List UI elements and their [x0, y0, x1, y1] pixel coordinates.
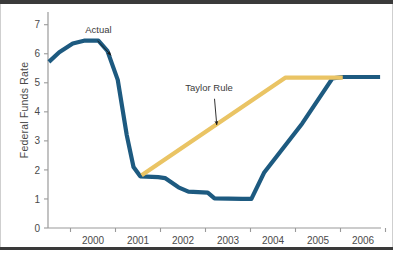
y-axis-ticks: 01234567 [34, 19, 48, 233]
y-tick-label: 5 [34, 77, 40, 88]
annotation-arrow-actual [98, 41, 112, 56]
x-tick-label: 2006 [352, 235, 375, 246]
line-chart-plot: 01234567 2000200120022003200420052006 Ac… [0, 0, 393, 259]
x-tick-label: 2005 [307, 235, 330, 246]
x-tick-label: 2004 [262, 235, 285, 246]
annotation-arrow-taylor-rule [215, 99, 217, 125]
chart-figure: Federal Funds Rate 01234567 200020012002… [0, 0, 393, 259]
x-axis-ticks: 2000200120022003200420052006 [71, 228, 386, 246]
y-tick-label: 4 [34, 106, 40, 117]
y-tick-label: 2 [34, 165, 40, 176]
x-tick-label: 2001 [127, 235, 150, 246]
y-tick-label: 6 [34, 48, 40, 59]
x-tick-label: 2000 [82, 235, 105, 246]
data-series-lines [49, 41, 380, 199]
series-line-taylor-rule [142, 78, 343, 176]
y-tick-label: 7 [34, 19, 40, 30]
y-tick-label: 0 [34, 223, 40, 234]
series-line-actual [49, 41, 380, 199]
y-tick-label: 1 [34, 194, 40, 205]
annotation-label-actual: Actual [85, 24, 111, 35]
chart-annotations: ActualTaylor Rule [85, 24, 233, 125]
x-tick-label: 2003 [217, 235, 240, 246]
y-tick-label: 3 [34, 135, 40, 146]
annotation-label-taylor-rule: Taylor Rule [185, 82, 233, 93]
x-tick-label: 2002 [172, 235, 195, 246]
